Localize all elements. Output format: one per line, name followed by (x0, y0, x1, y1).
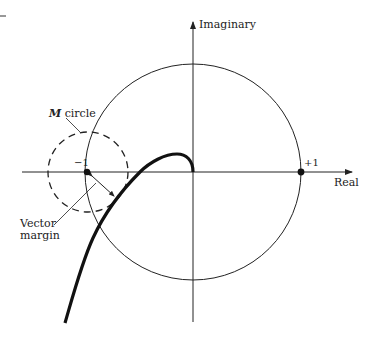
m-circle-text: circle (61, 107, 96, 120)
minus-one-label: −1 (74, 157, 89, 168)
vector-margin-label-line2: margin (20, 229, 60, 242)
m-circle-label: M circle (48, 107, 96, 120)
real-axis-label: Real (334, 176, 359, 189)
m-symbol: M (48, 107, 62, 120)
imaginary-axis-label: Imaginary (199, 18, 257, 31)
minus-one-point (84, 169, 90, 175)
plus-one-point (298, 169, 305, 176)
vector-margin-arrow (92, 176, 114, 196)
plus-one-label: +1 (304, 157, 319, 168)
m-circle-leader (66, 118, 80, 132)
nyquist-curve (65, 154, 193, 323)
nyquist-diagram: Imaginary Real −1 +1 M circle Vector mar… (0, 0, 374, 341)
